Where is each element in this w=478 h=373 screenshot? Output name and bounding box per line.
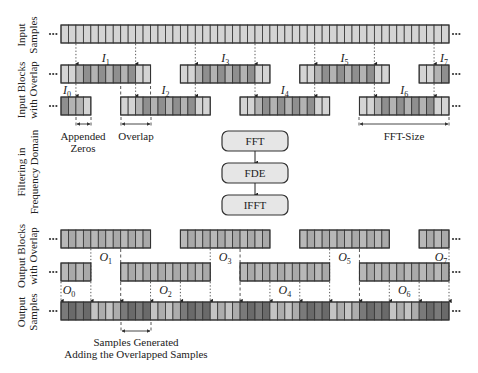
sample-cell	[233, 25, 240, 43]
input-block-6	[359, 97, 449, 115]
ellipsis-right	[455, 271, 457, 273]
sample-cell	[136, 65, 143, 83]
sample-cell	[248, 65, 255, 83]
sample-cell	[173, 302, 180, 320]
sample-cell	[374, 65, 381, 83]
sample-cell	[248, 230, 255, 248]
sample-cell	[277, 97, 284, 115]
sample-cell	[262, 263, 269, 281]
sample-cell	[106, 25, 113, 43]
sample-cell	[300, 263, 307, 281]
input-block-label-7: I7	[439, 51, 448, 67]
sample-cell	[143, 302, 150, 320]
sample-cell	[427, 25, 434, 43]
sample-cell	[255, 65, 262, 83]
sample-cell	[337, 25, 344, 43]
sample-cell	[352, 65, 359, 83]
sample-cell	[285, 302, 292, 320]
sample-cell	[412, 25, 419, 43]
sample-cell	[367, 65, 374, 83]
sample-cell	[76, 97, 83, 115]
ellipsis-right	[458, 105, 460, 107]
sample-cell	[248, 25, 255, 43]
sample-cell	[180, 97, 187, 115]
sample-cell	[270, 25, 277, 43]
sample-cell	[292, 97, 299, 115]
sample-cell	[300, 230, 307, 248]
sample-cell	[367, 230, 374, 248]
sample-cell	[307, 25, 314, 43]
sample-cell	[61, 25, 68, 43]
sample-cell	[61, 65, 68, 83]
sample-cell	[292, 263, 299, 281]
sample-cell	[427, 97, 434, 115]
sample-cell	[195, 25, 202, 43]
sample-cell	[419, 263, 426, 281]
sample-cell	[322, 230, 329, 248]
sample-cell	[91, 65, 98, 83]
row-label-output-samples: Output Samples	[15, 293, 39, 330]
sample-cell	[434, 25, 441, 43]
sample-cell	[315, 97, 322, 115]
sample-cell	[195, 263, 202, 281]
sample-cell	[188, 65, 195, 83]
sample-cell	[367, 25, 374, 43]
sample-cell	[128, 25, 135, 43]
input-samples-row	[61, 25, 449, 43]
svg-text:Frequency Domain: Frequency Domain	[28, 129, 40, 214]
sample-cell	[61, 302, 68, 320]
sample-cell	[240, 230, 247, 248]
ellipsis-left	[49, 310, 51, 312]
sample-cell	[128, 65, 135, 83]
sample-cell	[412, 97, 419, 115]
output-block-6	[359, 263, 449, 281]
sample-cell	[91, 25, 98, 43]
sample-cell	[195, 302, 202, 320]
sample-cell	[262, 302, 269, 320]
sample-cell	[262, 25, 269, 43]
sample-cell	[322, 65, 329, 83]
ellipsis-left	[52, 271, 54, 273]
sample-cell	[248, 97, 255, 115]
fft-box: FFT	[222, 131, 288, 151]
sample-cell	[121, 263, 128, 281]
ifft-box: IFFT	[222, 195, 288, 215]
sample-cell	[61, 230, 68, 248]
sample-cell	[300, 97, 307, 115]
sample-cell	[389, 263, 396, 281]
sample-cell	[165, 263, 172, 281]
sample-cell	[143, 25, 150, 43]
sample-cell	[76, 302, 83, 320]
sample-cell	[352, 230, 359, 248]
output-block-label-7: O7	[435, 250, 448, 266]
sample-cell	[359, 230, 366, 248]
sample-cell	[307, 230, 314, 248]
sample-cell	[188, 302, 195, 320]
sample-cell	[83, 25, 90, 43]
ellipsis-right	[455, 105, 457, 107]
sample-cell	[419, 97, 426, 115]
sample-cell	[218, 302, 225, 320]
input-block-7	[419, 65, 449, 83]
sample-cell	[240, 263, 247, 281]
sample-cell	[68, 263, 75, 281]
ellipsis-left	[55, 310, 57, 312]
output-block-1	[61, 230, 151, 248]
sample-cell	[240, 302, 247, 320]
sample-cell	[248, 302, 255, 320]
sample-cell	[151, 25, 158, 43]
ellipsis-left	[55, 73, 57, 75]
sample-cell	[442, 230, 449, 248]
sample-cell	[367, 302, 374, 320]
sample-cell	[113, 230, 120, 248]
sample-cell	[76, 263, 83, 281]
sample-cell	[427, 263, 434, 281]
sample-cell	[180, 65, 187, 83]
ellipsis-left	[55, 271, 57, 273]
sample-cell	[427, 302, 434, 320]
sample-cell	[442, 97, 449, 115]
input-block-3	[180, 65, 270, 83]
sample-cell	[262, 65, 269, 83]
sample-cell	[404, 25, 411, 43]
sample-cell	[389, 302, 396, 320]
